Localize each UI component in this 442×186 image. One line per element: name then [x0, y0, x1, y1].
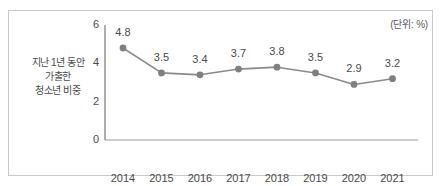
- plot-area: 0246 20142015201620172018201920202021 4.…: [105, 25, 418, 140]
- data-point-marker: [389, 75, 396, 82]
- y-axis-tick-label: 2: [81, 96, 99, 107]
- chart-figure: (단위: %) 지난 1년 동안 가출한 청소년 비중 0246 2014201…: [0, 0, 442, 186]
- data-point-label: 3.7: [219, 47, 259, 59]
- data-point-marker: [351, 81, 358, 88]
- y-axis-tick-label: 0: [81, 134, 99, 145]
- data-point-marker: [120, 45, 127, 52]
- data-point-marker: [312, 70, 319, 77]
- data-point-label: 3.5: [142, 51, 182, 63]
- data-point-marker: [274, 64, 281, 71]
- x-axis-tick-label: 2018: [255, 172, 299, 184]
- data-point-label: 4.8: [103, 26, 143, 38]
- x-axis-tick-label: 2017: [217, 172, 261, 184]
- data-point-marker: [158, 70, 165, 77]
- x-axis-tick-label: 2015: [140, 172, 184, 184]
- data-point-label: 3.8: [257, 45, 297, 57]
- x-axis-tick-label: 2020: [332, 172, 376, 184]
- plot-svg: [105, 25, 418, 140]
- series-description-line-2: 가출한: [16, 70, 100, 84]
- data-point-label: 2.9: [334, 62, 374, 74]
- x-axis-tick-label: 2019: [294, 172, 338, 184]
- data-point-marker: [235, 66, 242, 73]
- y-axis-tick-label: 4: [81, 57, 99, 68]
- x-axis-tick-label: 2021: [371, 172, 415, 184]
- y-axis-tick-label: 6: [81, 19, 99, 30]
- x-axis-tick-label: 2014: [101, 172, 145, 184]
- x-axis-tick-label: 2016: [178, 172, 222, 184]
- data-point-label: 3.2: [373, 57, 413, 69]
- data-point-label: 3.5: [296, 51, 336, 63]
- data-point-label: 3.4: [180, 53, 220, 65]
- data-point-marker: [197, 71, 204, 78]
